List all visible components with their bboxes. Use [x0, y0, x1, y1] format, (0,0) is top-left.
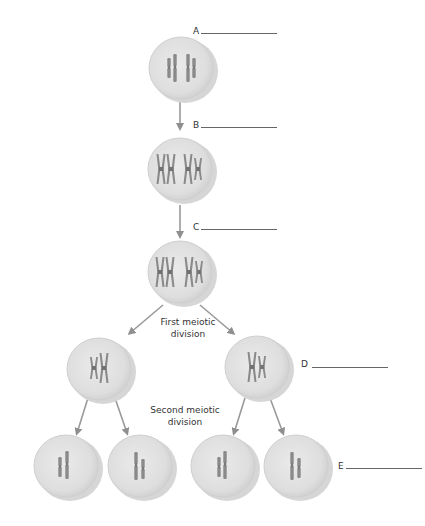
arrow-left-to-gamete-2: [115, 398, 127, 433]
answer-blank-c[interactable]: [201, 229, 277, 230]
label-d: D: [301, 360, 308, 369]
arrow-right-to-gamete-4: [270, 398, 283, 433]
label-e: E: [338, 462, 344, 471]
answer-blank-b[interactable]: [201, 127, 277, 128]
first-meiotic-division-caption: First meiotic division: [148, 316, 228, 340]
caption-line: division: [148, 328, 228, 340]
cell-7: [108, 435, 177, 501]
answer-blank-d[interactable]: [312, 367, 388, 368]
meiosis-diagram: A B C D E First meiotic division Second …: [0, 0, 425, 526]
caption-line: Second meiotic: [140, 404, 230, 416]
cell-8: [191, 435, 260, 501]
cell-4: [67, 338, 136, 404]
arrow-left-to-gamete-1: [77, 398, 88, 433]
cell-5: [225, 336, 294, 402]
second-meiotic-division-caption: Second meiotic division: [140, 404, 230, 428]
answer-blank-a[interactable]: [201, 33, 277, 34]
diagram-canvas: [0, 0, 425, 526]
cell-6: [34, 435, 103, 501]
cell-3: [148, 241, 217, 307]
answer-blank-e[interactable]: [346, 468, 422, 469]
cell-1: [149, 37, 218, 103]
cell-2: [148, 138, 217, 204]
caption-line: First meiotic: [148, 316, 228, 328]
cell-9: [264, 435, 333, 501]
label-c: C: [193, 223, 199, 232]
arrow-right-to-gamete-3: [234, 398, 245, 433]
caption-line: division: [140, 416, 230, 428]
label-b: B: [193, 121, 199, 130]
label-a: A: [193, 27, 199, 36]
